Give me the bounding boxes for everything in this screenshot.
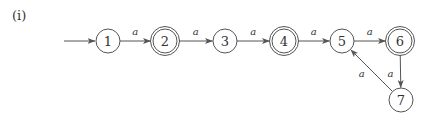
transition-6-7: a <box>388 55 401 88</box>
automaton-diagram: aaaaaaa 1234567 <box>0 0 429 118</box>
state-label: 7 <box>397 93 405 108</box>
transition-7-5: a <box>351 50 393 92</box>
state-2: 2 <box>151 27 180 56</box>
transition-label: a <box>388 68 394 79</box>
transition-label: a <box>193 26 199 37</box>
state-3: 3 <box>213 29 237 53</box>
state-label: 3 <box>221 34 229 49</box>
transition-label: a <box>311 26 317 37</box>
state-label: 5 <box>338 34 346 49</box>
state-5: 5 <box>330 29 354 53</box>
state-label: 2 <box>161 34 169 49</box>
state-4: 4 <box>270 27 299 56</box>
state-label: 1 <box>104 34 112 49</box>
transition-label: a <box>367 26 373 37</box>
transition-5-6: a <box>354 26 386 41</box>
transition-label: a <box>132 26 138 37</box>
states-layer: 1234567 <box>96 27 415 113</box>
transition-1-2: a <box>120 26 151 41</box>
transition-label: a <box>250 26 256 37</box>
transition-2-3: a <box>179 26 213 41</box>
transition-label: a <box>359 68 365 79</box>
transition-3-4: a <box>237 26 270 41</box>
state-7: 7 <box>389 88 413 112</box>
state-label: 4 <box>280 34 288 49</box>
state-1: 1 <box>96 29 120 53</box>
state-6: 6 <box>386 27 415 56</box>
transition-4-5: a <box>298 26 330 41</box>
state-label: 6 <box>396 34 404 49</box>
